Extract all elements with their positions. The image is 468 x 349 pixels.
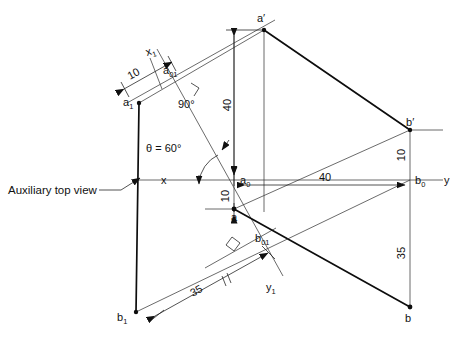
ext-line-dim10-aux-left — [121, 82, 129, 97]
point-marker-a1 — [137, 101, 141, 105]
top-view-line-a-b — [234, 209, 410, 307]
angle-theta-arc — [199, 155, 218, 183]
label-a01: a01 — [163, 64, 177, 79]
label-a1: a1 — [123, 96, 133, 111]
label-b-zero: b0 — [415, 174, 425, 189]
label-b01: b01 — [255, 232, 269, 247]
dim-line-35-oblique — [155, 253, 268, 316]
dim-40-vertical-text: 40 — [221, 99, 233, 111]
engineering-drawing-svg: 10 40 10 40 10 35 35 θ = 60° 90° a′ b′ a… — [0, 0, 468, 349]
technical-drawing-canvas: 10 40 10 40 10 35 35 θ = 60° 90° a′ b′ a… — [0, 0, 468, 349]
label-y-axis: y — [444, 174, 450, 186]
dim-10-auxiliary-text: 10 — [125, 65, 142, 81]
front-view-line-aprime-bprime — [264, 30, 410, 130]
dim-10-bprime-b0-text: 10 — [395, 149, 407, 161]
ext-line-dim35-oblique-left — [149, 310, 164, 322]
label-a-zero: a0 — [240, 174, 250, 189]
envelope-line-aprime-a1 — [139, 30, 264, 103]
angle-theta-arrow-2 — [222, 140, 229, 150]
label-b-prime: b′ — [406, 116, 414, 128]
annotation-auxiliary-top-view: Auxiliary top view — [8, 184, 98, 196]
right-angle-symbol-lower — [226, 237, 240, 251]
label-x1-axis: x1 — [144, 44, 158, 61]
point-marker-a-prime — [262, 28, 266, 32]
dim-35-vertical-text: 35 — [395, 247, 407, 259]
dim-40-horizontal-text: 40 — [319, 171, 331, 183]
label-y1-axis: y1 — [266, 281, 276, 296]
label-a: a — [231, 211, 238, 223]
angle-ninety-text: 90° — [178, 98, 195, 110]
label-b1: b1 — [117, 311, 127, 326]
angle-theta-text: θ = 60° — [146, 142, 181, 154]
label-a-prime: a′ — [257, 12, 265, 24]
point-marker-b — [408, 305, 413, 310]
point-marker-b1 — [134, 310, 138, 314]
label-b: b — [405, 312, 411, 324]
envelope-line-bprime-a — [234, 130, 410, 209]
auxiliary-view-line-a1-b1 — [136, 103, 139, 312]
label-x-axis: x — [161, 174, 167, 186]
right-angle-symbol-upper — [191, 83, 199, 96]
point-marker-b-prime — [408, 128, 412, 132]
dim-10-a0-a-text: 10 — [219, 190, 231, 202]
auxiliary-ground-line-upper — [127, 20, 275, 103]
